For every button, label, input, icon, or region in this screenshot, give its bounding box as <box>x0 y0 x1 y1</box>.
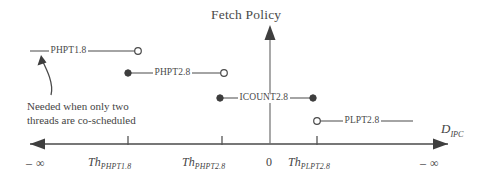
axis-label-th-plpt2-8-base: Th <box>288 155 301 169</box>
annotation-arrow-head <box>38 55 47 66</box>
horizontal-axis <box>30 139 448 150</box>
horizontal-axis-title-base: D <box>441 121 450 136</box>
axis-label-th-phpt1-8-base: Th <box>88 155 101 169</box>
series-icount2-8-start-filled-circle-marker <box>217 95 223 101</box>
series-icount2-8-end-filled-circle-marker <box>310 95 316 101</box>
annotation-arrow-curve <box>42 60 52 95</box>
horizontal-axis-arrow-left <box>30 139 45 150</box>
figure-canvas <box>0 0 478 182</box>
series-label-plpt2-8: PLPT2.8 <box>343 116 381 126</box>
series-phpt2-8-start-filled-circle-marker <box>125 70 131 76</box>
axis-label-th-phpt1-8: ThPHPT1.8 <box>88 156 131 171</box>
axis-label-th-phpt2-8-subscript: PHPT2.8 <box>195 162 226 171</box>
axis-label-th-phpt2-8-base: Th <box>182 155 195 169</box>
axis-label-th-phpt1-8-subscript: PHPT1.8 <box>101 162 132 171</box>
axis-label-zero: 0 <box>266 156 272 168</box>
horizontal-axis-title-subscript: IPC <box>450 130 463 139</box>
series-label-icount2-8: ICOUNT2.8 <box>238 93 290 103</box>
series-label-phpt2-8: PHPT2.8 <box>153 68 192 78</box>
series-label-phpt1-8: PHPT1.8 <box>49 46 88 56</box>
axis-label-left-infinity: – ∞ <box>26 157 45 169</box>
horizontal-axis-arrow-right <box>433 139 448 150</box>
annotation-curved-arrow <box>38 55 52 95</box>
axis-label-th-plpt2-8-subscript: PLPT2.8 <box>301 162 330 171</box>
vertical-axis <box>265 25 276 144</box>
fetch-policy-number-line-figure: Fetch Policy PHPT1.8 PHPT2.8 ICOUNT2.8 P… <box>0 0 478 182</box>
axis-label-right-infinity: – ∞ <box>420 157 439 169</box>
horizontal-axis-title: DIPC <box>441 122 464 139</box>
vertical-axis-title: Fetch Policy <box>211 8 281 22</box>
series-phpt2-8-end-open-circle-marker <box>221 70 228 77</box>
axis-label-th-plpt2-8: ThPLPT2.8 <box>288 156 330 171</box>
series-phpt1-8-end-open-circle-marker <box>135 48 142 55</box>
series-plpt2-8-start-open-circle-marker <box>314 118 321 125</box>
annotation-note-text: Needed when only two threads are co-sche… <box>27 100 136 127</box>
axis-label-th-phpt2-8: ThPHPT2.8 <box>182 156 225 171</box>
vertical-axis-arrow <box>265 25 276 40</box>
